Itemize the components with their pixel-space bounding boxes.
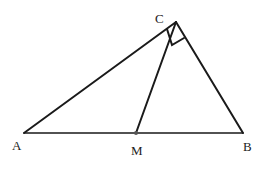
segment-ac [24,22,176,133]
midpoint-m-dot [134,131,138,135]
label-m: M [131,143,143,158]
label-a: A [12,138,22,153]
label-b: B [243,139,252,154]
segment-cb [176,22,243,133]
label-c: C [155,11,164,26]
triangle-diagram: A B C M [0,0,266,169]
